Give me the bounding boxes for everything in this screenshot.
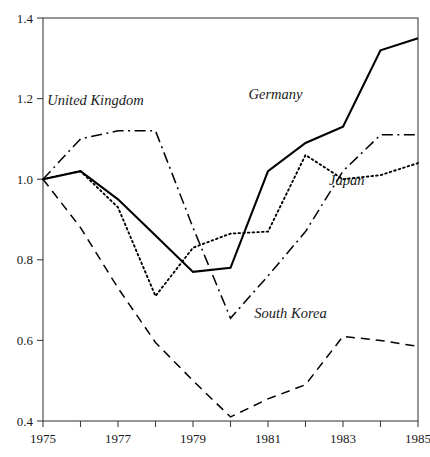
y-tick-label: 0.4 xyxy=(17,414,34,429)
x-tick-label: 1975 xyxy=(30,431,56,446)
x-tick-label: 1983 xyxy=(330,431,356,446)
y-tick-label: 1.2 xyxy=(17,91,33,106)
line-chart: 0.40.60.81.01.21.4 197519771979198119831… xyxy=(0,0,430,457)
series-line-south-korea xyxy=(43,179,418,417)
plot-border xyxy=(43,18,418,421)
x-axis-tick-labels: 197519771979198119831985 xyxy=(30,431,430,446)
series-annotations: GermanyUnited KingdomJapanSouth Korea xyxy=(47,86,364,322)
y-tick-label: 1.0 xyxy=(17,172,33,187)
x-tick-label: 1979 xyxy=(180,431,206,446)
series-line-united-kingdom xyxy=(43,131,418,318)
x-tick-label: 1985 xyxy=(405,431,430,446)
y-axis-tick-labels: 0.40.60.81.01.21.4 xyxy=(17,11,34,429)
series-label-united-kingdom: United Kingdom xyxy=(47,92,143,108)
y-tick-label: 1.4 xyxy=(17,11,34,26)
chart-container: 0.40.60.81.01.21.4 197519771979198119831… xyxy=(0,0,430,457)
series-label-south-korea: South Korea xyxy=(254,305,326,321)
series-line-germany xyxy=(43,38,418,272)
y-tick-label: 0.6 xyxy=(17,333,34,348)
series-label-japan: Japan xyxy=(329,172,364,188)
plot-frame xyxy=(43,18,418,421)
y-axis-ticks xyxy=(37,18,43,421)
y-tick-label: 0.8 xyxy=(17,252,33,267)
series-label-germany: Germany xyxy=(249,86,304,102)
x-axis-ticks xyxy=(43,421,418,427)
x-tick-label: 1977 xyxy=(105,431,132,446)
x-tick-label: 1981 xyxy=(255,431,281,446)
